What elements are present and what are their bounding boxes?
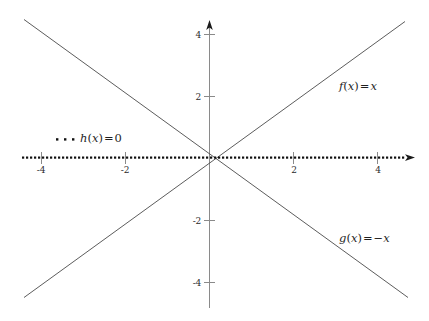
y-tick-label-2: 2 — [195, 92, 201, 102]
series-label-g-equals: = — [363, 231, 373, 245]
x-tick-label-4: 4 — [375, 165, 381, 175]
x-tick-label-minus-4: -4 — [37, 165, 45, 175]
function-line-f — [24, 22, 405, 298]
series-label-h-equals: = — [104, 131, 114, 145]
y-tick-label-minus-4: -4 — [193, 278, 201, 288]
series-label-g-close: ) — [357, 231, 362, 245]
series-label-f-rhs: x — [370, 79, 377, 93]
series-label-h-close: ) — [98, 131, 103, 145]
series-label-g-rhs: −x — [374, 231, 390, 245]
x-tick-label-minus-2: -2 — [121, 165, 129, 175]
plot-canvas — [0, 0, 429, 321]
series-label-f: f(x)=x — [339, 79, 377, 93]
function-graph-figure: -4 -2 2 4 4 2 -2 -4 f(x)=x g(x)=−x h(x)=… — [0, 0, 429, 321]
series-label-f-equals: = — [360, 79, 370, 93]
x-tick-label-2: 2 — [291, 165, 297, 175]
y-tick-label-minus-2: -2 — [193, 216, 201, 226]
series-label-h-rhs: 0 — [115, 131, 122, 145]
dotted-marker-icon — [55, 133, 77, 143]
series-label-g: g(x)=−x — [339, 231, 390, 245]
series-legend-h: h(x)=0 — [55, 131, 122, 145]
y-tick-label-4: 4 — [195, 30, 201, 40]
series-label-h: h(x)=0 — [80, 131, 122, 145]
series-label-f-close: ) — [354, 79, 359, 93]
x-axis-arrow-icon — [405, 154, 415, 161]
